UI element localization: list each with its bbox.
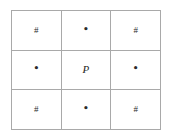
- grid-cell-r3c2[interactable]: •: [61, 90, 111, 130]
- hash-glyph: #: [111, 105, 160, 114]
- hash-glyph: #: [12, 105, 61, 114]
- grid-cell-r1c3[interactable]: #: [111, 11, 161, 51]
- grid-cell-r2c1[interactable]: •: [12, 50, 62, 90]
- dot-glyph: •: [111, 64, 160, 73]
- hash-glyph: #: [111, 26, 160, 35]
- grid-cell-r3c1[interactable]: #: [12, 90, 62, 130]
- dot-glyph: •: [62, 25, 111, 34]
- grid-cell-r2c3[interactable]: •: [111, 50, 161, 90]
- grid-body: # • # • P •: [12, 11, 161, 130]
- figure-canvas: # • # • P •: [0, 0, 170, 136]
- grid-cell-r3c3[interactable]: #: [111, 90, 161, 130]
- dot-glyph: •: [62, 104, 111, 113]
- grid-cell-r1c2[interactable]: •: [61, 11, 111, 51]
- grid-row-1: # • #: [12, 11, 161, 51]
- grid-row-2: • P •: [12, 50, 161, 90]
- center-label-p: P: [62, 64, 111, 75]
- three-by-three-grid: # • # • P •: [11, 10, 161, 130]
- hash-glyph: #: [12, 26, 61, 35]
- grid-cell-r2c2[interactable]: P: [61, 50, 111, 90]
- grid-row-3: # • #: [12, 90, 161, 130]
- grid-cell-r1c1[interactable]: #: [12, 11, 62, 51]
- dot-glyph: •: [12, 64, 61, 73]
